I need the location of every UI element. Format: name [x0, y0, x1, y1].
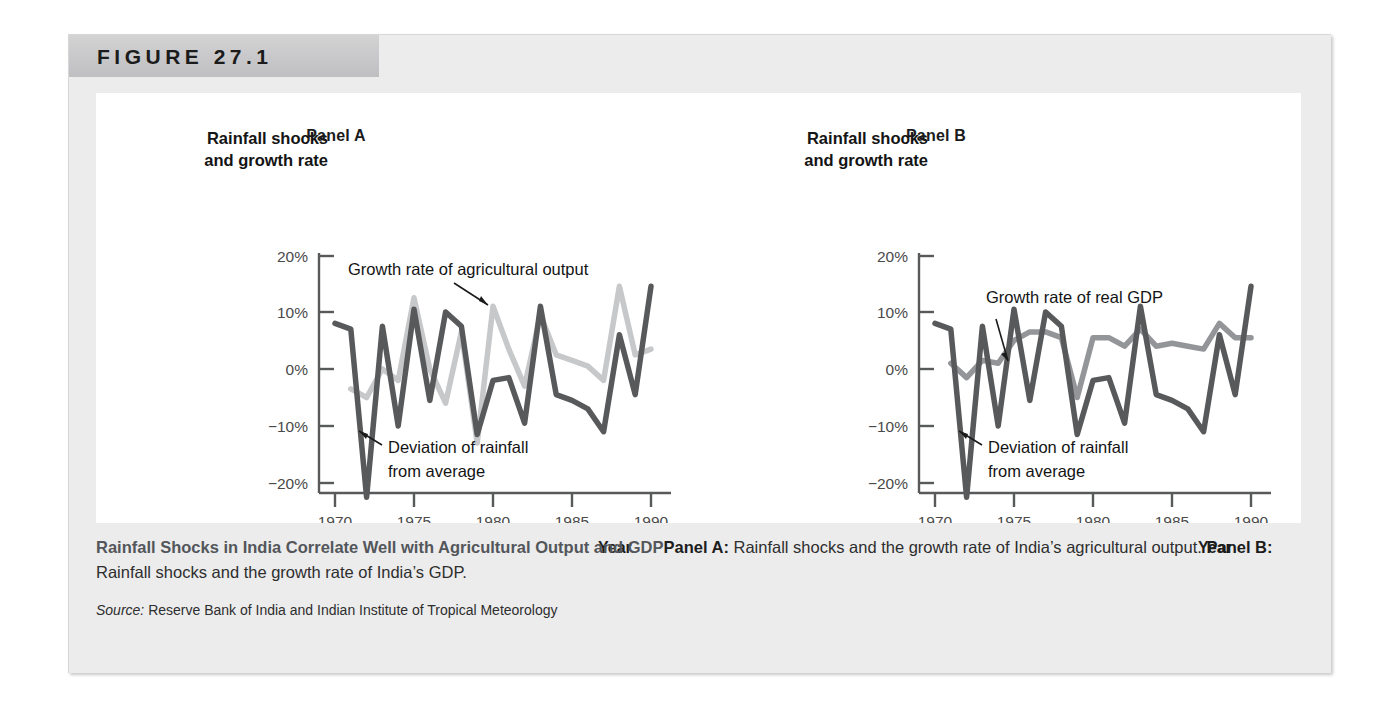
figure-number-label: FIGURE 27.1	[97, 45, 273, 69]
panel-b-chart: 20% 10% 0% −10% −20% 1970 1975 1980	[696, 93, 1296, 523]
panel-a-growth-annotation-arrowhead	[479, 296, 488, 305]
panel-a-xtick-1985: 1985	[555, 513, 589, 523]
panel-b-ytick-neg10: −10%	[868, 418, 908, 435]
panel-b-y-ticks	[919, 256, 934, 483]
panel-b-ytick-20: 20%	[877, 248, 908, 265]
panel-a-ytick-10: 10%	[277, 304, 308, 321]
panel-a-x-ticks	[335, 493, 651, 507]
caption-main: Rainfall Shocks in India Correlate Well …	[96, 535, 1306, 585]
caption-panel-a-tag: Panel A:	[664, 538, 729, 556]
caption-headline: Rainfall Shocks in India Correlate Well …	[96, 538, 664, 556]
caption-panel-b-tag: Panel B:	[1206, 538, 1272, 556]
panel-b-gdp-annotation-text: Growth rate of real GDP	[986, 288, 1163, 306]
panel-a-ytick-0: 0%	[286, 361, 309, 378]
panel-b-xtick-1985: 1985	[1155, 513, 1189, 523]
panel-a-y-ticks	[319, 256, 334, 483]
panel-a-rainfall-annotation-line2: from average	[388, 462, 485, 480]
figure-number-band: FIGURE 27.1	[69, 35, 379, 77]
panel-a-xtick-1980: 1980	[476, 513, 511, 523]
panel-b-xtick-1990: 1990	[1234, 513, 1269, 523]
panel-b-rainfall-annotation-line1: Deviation of rainfall	[988, 438, 1128, 456]
panel-a-ytick-20: 20%	[277, 248, 308, 265]
panel-a-growth-annotation-text: Growth rate of agricultural output	[348, 260, 589, 278]
caption-source: Source: Reserve Bank of India and Indian…	[96, 602, 1306, 618]
panel-b-xtick-1970: 1970	[918, 513, 953, 523]
figure-panel: FIGURE 27.1 Rainfall shocks and growth r…	[68, 34, 1331, 673]
panel-b-xtick-1975: 1975	[997, 513, 1031, 523]
panel-b-xtick-1980: 1980	[1076, 513, 1111, 523]
caption-panel-b-text: Rainfall shocks and the growth rate of I…	[96, 563, 467, 581]
panel-a-xtick-1970: 1970	[318, 513, 353, 523]
panel-a-ytick-neg20: −20%	[268, 475, 308, 492]
panel-b-rainfall-line	[935, 286, 1251, 497]
panel-b-x-ticks	[935, 493, 1251, 507]
plot-card: Rainfall shocks and growth rate Panel A	[96, 93, 1301, 523]
panel-b: Rainfall shocks and growth rate Panel B …	[696, 93, 1296, 523]
caption-panel-a-text: Rainfall shocks and the growth rate of I…	[729, 538, 1207, 556]
panel-a-rainfall-annotation-line1: Deviation of rainfall	[388, 438, 528, 456]
panel-b-gdp-line	[951, 323, 1251, 397]
panel-a-xtick-1990: 1990	[634, 513, 669, 523]
panel-b-rainfall-annotation-line2: from average	[988, 462, 1085, 480]
panel-b-ytick-10: 10%	[877, 304, 908, 321]
figure-root: FIGURE 27.1 Rainfall shocks and growth r…	[0, 0, 1394, 706]
panel-a-chart: 20% 10% 0% −10% −20% 1970 1975	[96, 93, 696, 523]
caption-block: Rainfall Shocks in India Correlate Well …	[96, 535, 1306, 618]
caption-source-label: Source:	[96, 602, 144, 618]
panel-b-ytick-neg20: −20%	[868, 475, 908, 492]
panel-b-ytick-0: 0%	[886, 361, 909, 378]
panel-a-ytick-neg10: −10%	[268, 418, 308, 435]
panel-a: Rainfall shocks and growth rate Panel A	[96, 93, 696, 523]
panel-a-xtick-1975: 1975	[397, 513, 431, 523]
caption-source-text: Reserve Bank of India and Indian Institu…	[144, 602, 557, 618]
